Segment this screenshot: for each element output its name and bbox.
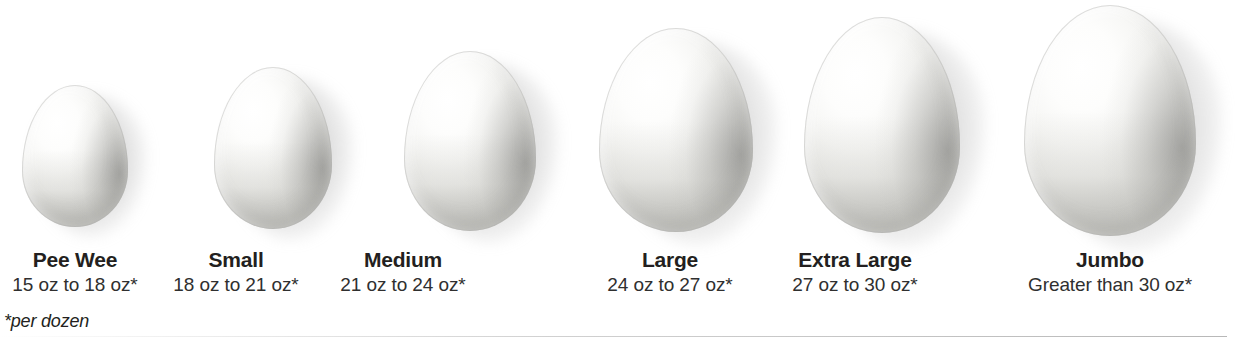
egg-graphic-pee-wee (22, 85, 128, 227)
size-name: Jumbo (985, 249, 1235, 271)
egg-label-jumbo: Jumbo Greater than 30 oz* (985, 249, 1235, 296)
egg-label-medium: Medium 21 oz to 24 oz* (278, 249, 528, 296)
bottom-divider (0, 336, 1227, 337)
size-name: Extra Large (730, 249, 980, 271)
size-name: Medium (278, 249, 528, 271)
egg-label-extra-large: Extra Large 27 oz to 30 oz* (730, 249, 980, 296)
egg-graphic-extra-large (804, 17, 960, 233)
egg-graphic-jumbo (1024, 5, 1196, 236)
egg-graphic-small (214, 67, 332, 229)
footnote: *per dozen (4, 311, 89, 332)
egg-graphic-large (599, 28, 753, 232)
size-range: 27 oz to 30 oz* (730, 274, 980, 296)
size-range: 21 oz to 24 oz* (278, 274, 528, 296)
size-range: Greater than 30 oz* (985, 274, 1235, 296)
egg-graphic-medium (404, 51, 536, 231)
